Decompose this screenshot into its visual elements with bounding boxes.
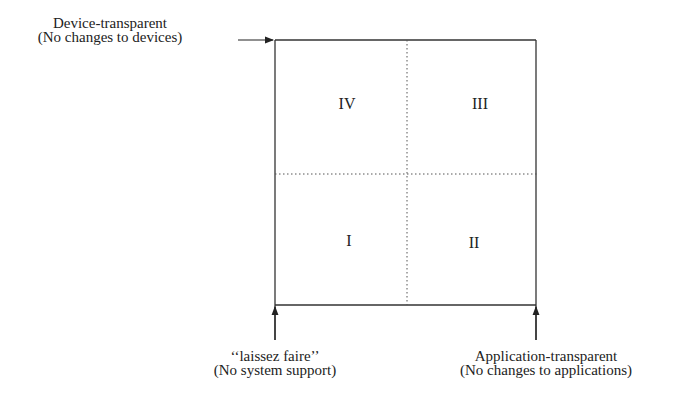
quadrant-ii-label: II <box>469 234 480 252</box>
device-transparent-label: Device-transparent (No changes to device… <box>10 16 210 44</box>
laissez-faire-subtitle: (No system support) <box>175 363 375 377</box>
application-transparent-title: Application-transparent <box>426 349 666 363</box>
laissez-faire-title: ‘‘laissez faire’’ <box>175 349 375 363</box>
quadrant-iv-label: IV <box>339 95 356 113</box>
quadrant-diagram <box>0 0 691 404</box>
device-transparent-subtitle: (No changes to devices) <box>10 30 210 44</box>
application-transparent-subtitle: (No changes to applications) <box>426 363 666 377</box>
quadrant-i-label: I <box>346 232 351 250</box>
quadrant-iii-label: III <box>472 95 488 113</box>
application-transparent-label: Application-transparent (No changes to a… <box>426 349 666 377</box>
laissez-faire-label: ‘‘laissez faire’’ (No system support) <box>175 349 375 377</box>
device-transparent-title: Device-transparent <box>10 16 210 30</box>
